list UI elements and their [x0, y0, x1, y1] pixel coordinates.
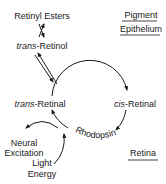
node-retinyl-esters: Retinyl Esters	[14, 11, 70, 21]
node-rhodopsin: Rhodopsin	[74, 125, 117, 140]
cycle-arcs	[52, 60, 127, 130]
svg-text:Energy: Energy	[28, 169, 57, 179]
node-neural-excitation: Neural Excitation	[4, 138, 43, 158]
svg-text:Light: Light	[32, 158, 52, 168]
visual-cycle-diagram: Pigment Epithelium Retina Retinyl Esters…	[0, 0, 166, 184]
arrow-from-light-energy-icon	[54, 134, 64, 164]
svg-text:Retina: Retina	[130, 148, 156, 158]
node-cis-retinal: cis-Retinal	[114, 99, 156, 109]
reversible-arrow-retinol-retinal-icon	[35, 53, 57, 84]
node-light-energy: Light Energy	[28, 158, 57, 179]
pigment-epithelium-label: Pigment Epithelium	[120, 10, 162, 35]
svg-text:Neural: Neural	[11, 138, 38, 148]
node-trans-retinal: trans-Retinal	[14, 99, 65, 109]
reversible-arrow-esters-retinol-icon	[39, 24, 44, 37]
svg-text:Pigment: Pigment	[124, 10, 158, 20]
node-trans-retinol: trans-Retinol	[16, 41, 67, 51]
svg-text:Excitation: Excitation	[4, 148, 43, 158]
arrow-to-neural-excitation-icon	[26, 122, 58, 129]
retina-label: Retina	[128, 148, 158, 160]
svg-text:Epithelium: Epithelium	[120, 24, 162, 34]
